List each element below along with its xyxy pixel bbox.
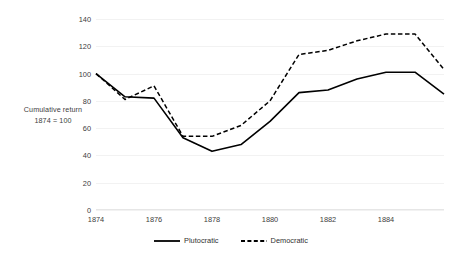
legend-item-democratic[interactable]: Democratic: [241, 236, 308, 245]
y-axis-title-line1: Cumulative return: [10, 104, 96, 115]
y-axis-tick-label: 0: [87, 206, 91, 215]
series-line-plutocratic: [96, 72, 444, 151]
y-axis-tick-label: 140: [79, 15, 91, 24]
x-axis-tick-label: 1880: [262, 215, 278, 224]
gridline: [96, 210, 444, 211]
line-chart: Cumulative return 1874 = 100 02040608010…: [0, 0, 462, 258]
legend-label: Plutocratic: [184, 236, 219, 245]
legend-swatch-solid-line-icon: [154, 237, 180, 245]
legend-label: Democratic: [271, 236, 308, 245]
y-axis-tick-label: 60: [83, 124, 91, 133]
x-axis-tick-label: 1878: [204, 215, 220, 224]
y-axis-tick-label: 100: [79, 69, 91, 78]
x-axis-tick-label: 1874: [88, 215, 104, 224]
y-axis-tick-label: 80: [83, 96, 91, 105]
legend-swatch-dashed-line-icon: [241, 237, 267, 245]
legend-item-plutocratic[interactable]: Plutocratic: [154, 236, 219, 245]
y-axis-tick-label: 40: [83, 151, 91, 160]
plot-area: 020406080100120140 187418761878188018821…: [96, 19, 444, 210]
y-axis-tick-label: 120: [79, 42, 91, 51]
chart-legend: PlutocraticDemocratic: [0, 236, 462, 245]
x-axis-tick-label: 1882: [320, 215, 336, 224]
x-axis-tick-label: 1884: [378, 215, 394, 224]
series-lines: [96, 19, 444, 210]
y-axis-tick-label: 20: [83, 178, 91, 187]
x-axis-tick-label: 1876: [146, 215, 162, 224]
